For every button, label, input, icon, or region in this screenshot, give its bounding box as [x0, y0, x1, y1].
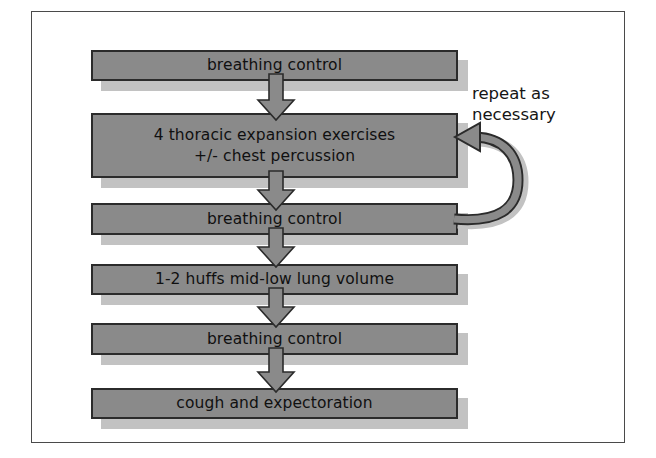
- node-label: cough and expectoration: [170, 393, 378, 413]
- arrow-down-1-2: [255, 74, 297, 122]
- repeat-as-necessary-caption: repeat as necessary: [472, 84, 612, 126]
- node-thoracic-expansion[interactable]: 4 thoracic expansion exercises +/- chest…: [91, 113, 458, 178]
- arrow-down-4-5: [255, 288, 297, 329]
- flowchart-figure: breathing control 4 thoracic expansion e…: [0, 0, 656, 458]
- arrow-down-3-4: [255, 228, 297, 269]
- node-label: breathing control: [201, 329, 348, 349]
- node-label: breathing control: [201, 55, 348, 75]
- node-label: 4 thoracic expansion exercises +/- chest…: [148, 125, 402, 165]
- node-label: 1-2 huffs mid-low lung volume: [149, 269, 400, 289]
- arrow-down-2-3: [255, 171, 297, 212]
- arrow-down-5-6: [255, 348, 297, 394]
